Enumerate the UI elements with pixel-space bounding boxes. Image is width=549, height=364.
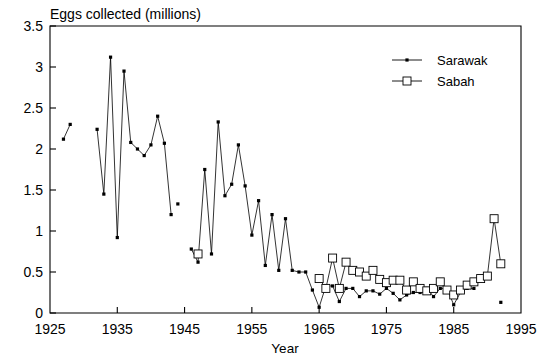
- data-point-marker: [398, 298, 401, 301]
- series-line-segment: [97, 57, 171, 237]
- data-point-marker: [196, 261, 199, 264]
- chart-legend: SarawakSabah: [392, 53, 488, 89]
- series-line-segment: [63, 124, 70, 139]
- legend-item-sabah: Sabah: [392, 74, 475, 89]
- x-tick-label: 1985: [438, 321, 469, 337]
- series-line-segment: [191, 122, 474, 307]
- data-point-marker: [149, 143, 152, 146]
- data-point-marker: [365, 289, 368, 292]
- data-point-marker: [378, 293, 381, 296]
- x-tick-label: 1965: [304, 321, 335, 337]
- data-point-marker: [163, 142, 166, 145]
- data-point-marker: [136, 147, 139, 150]
- x-tick-label: 1995: [505, 321, 536, 337]
- data-point-marker: [170, 213, 173, 216]
- data-point-marker: [412, 291, 415, 294]
- data-point-marker: [490, 215, 498, 223]
- data-point-marker: [331, 284, 334, 287]
- data-point-marker: [210, 252, 213, 255]
- page-title: Eggs collected (millions): [50, 6, 201, 22]
- data-point-marker: [297, 270, 300, 273]
- x-tick-label: 1975: [371, 321, 402, 337]
- legend-sample-marker: [405, 58, 408, 61]
- x-tick-label: 1955: [236, 321, 267, 337]
- data-point-marker: [369, 266, 377, 274]
- data-point-marker: [385, 287, 388, 290]
- data-point-marker: [351, 287, 354, 290]
- data-point-marker: [223, 194, 226, 197]
- data-point-marker: [318, 306, 321, 309]
- data-point-marker: [291, 269, 294, 272]
- data-point-marker: [217, 120, 220, 123]
- data-point-marker: [250, 234, 253, 237]
- data-point-marker: [62, 138, 65, 141]
- legend-label: Sarawak: [437, 53, 488, 68]
- legend-item-sarawak: Sarawak: [392, 53, 488, 68]
- y-tick-label: 1.5: [24, 182, 44, 198]
- data-point-marker: [264, 264, 267, 267]
- x-axis-ticks: 19251935194519551965197519851995: [34, 307, 536, 337]
- data-point-marker: [315, 275, 323, 283]
- data-point-marker: [270, 213, 273, 216]
- y-tick-label: 0: [35, 305, 43, 321]
- x-axis-label: Year: [271, 341, 299, 356]
- data-point-marker: [311, 288, 314, 291]
- data-point-marker: [237, 143, 240, 146]
- chart-figure: 00.511.522.533.5 19251935194519551965197…: [0, 0, 549, 364]
- data-point-marker: [203, 168, 206, 171]
- y-tick-label: 1: [35, 223, 43, 239]
- data-point-marker: [392, 292, 395, 295]
- data-point-marker: [156, 115, 159, 118]
- data-point-marker: [436, 278, 444, 286]
- data-point-marker: [69, 123, 72, 126]
- data-point-marker: [403, 286, 411, 294]
- data-point-marker: [143, 154, 146, 157]
- data-point-marker: [499, 301, 502, 304]
- data-point-marker: [277, 269, 280, 272]
- data-point-marker: [358, 295, 361, 298]
- plot-frame: [50, 26, 521, 313]
- data-point-marker: [335, 284, 343, 292]
- data-point-marker: [432, 295, 435, 298]
- data-point-marker: [439, 287, 442, 290]
- data-point-marker: [102, 193, 105, 196]
- y-tick-label: 2: [35, 141, 43, 157]
- y-tick-label: 0.5: [24, 264, 44, 280]
- data-point-marker: [344, 287, 347, 290]
- data-point-marker: [244, 184, 247, 187]
- y-axis-ticks: 00.511.522.533.5: [24, 18, 56, 321]
- data-point-marker: [396, 276, 404, 284]
- data-point-marker: [483, 272, 491, 280]
- legend-sample-marker: [403, 77, 411, 85]
- data-point-marker: [176, 202, 179, 205]
- data-point-marker: [122, 70, 125, 73]
- eggs-collected-line-chart: 00.511.522.533.5 19251935194519551965197…: [0, 0, 549, 364]
- legend-label: Sabah: [437, 74, 475, 89]
- series-sabah: [194, 215, 505, 299]
- data-point-marker: [472, 287, 475, 290]
- x-tick-label: 1935: [102, 321, 133, 337]
- x-tick-label: 1945: [169, 321, 200, 337]
- data-point-marker: [342, 258, 350, 266]
- data-point-marker: [96, 128, 99, 131]
- y-tick-label: 2.5: [24, 100, 44, 116]
- data-point-marker: [322, 284, 330, 292]
- series-sarawak: [62, 56, 503, 309]
- data-point-marker: [371, 289, 374, 292]
- y-tick-label: 3.5: [24, 18, 44, 34]
- x-tick-label: 1925: [34, 321, 65, 337]
- data-point-marker: [116, 236, 119, 239]
- y-tick-label: 3: [35, 59, 43, 75]
- data-point-marker: [497, 260, 505, 268]
- plot-area-border: [50, 26, 521, 313]
- data-point-marker: [304, 270, 307, 273]
- data-point-marker: [194, 250, 202, 258]
- data-point-marker: [109, 56, 112, 59]
- data-series-group: [62, 56, 505, 309]
- data-point-marker: [230, 183, 233, 186]
- data-point-marker: [190, 247, 193, 250]
- data-point-marker: [329, 254, 337, 262]
- data-point-marker: [284, 217, 287, 220]
- data-point-marker: [452, 303, 455, 306]
- data-point-marker: [257, 199, 260, 202]
